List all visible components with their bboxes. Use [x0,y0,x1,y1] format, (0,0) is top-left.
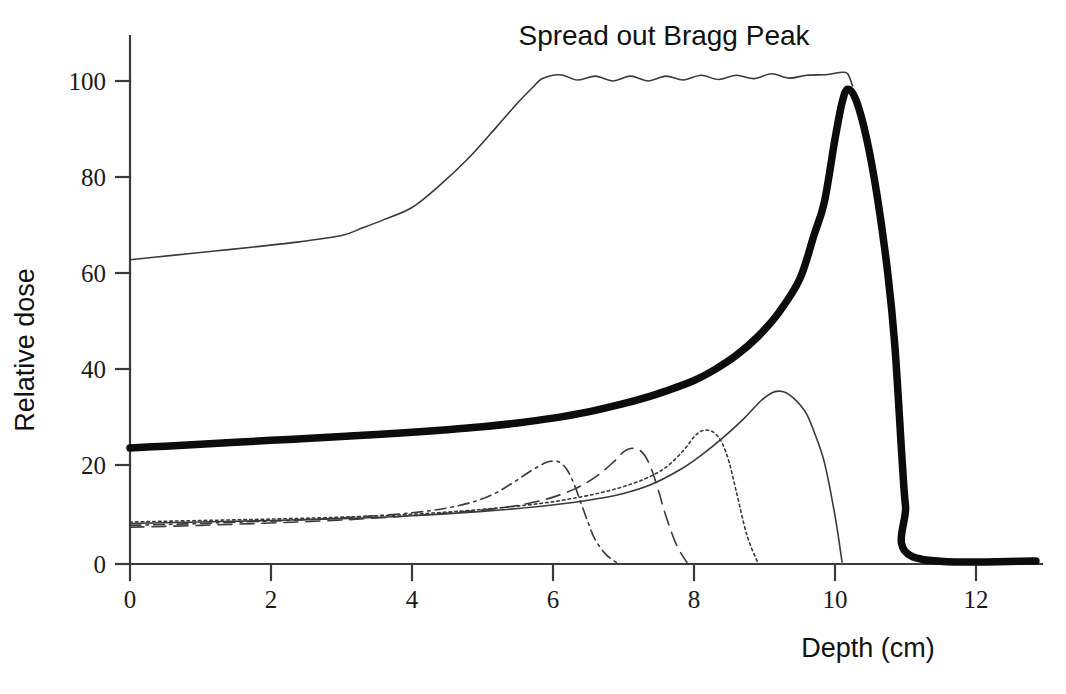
y-axis-title: Relative dose [10,268,40,432]
y-tick-label-40: 40 [81,356,106,383]
x-axis-tick-labels: 0 2 4 6 8 10 12 [124,586,989,613]
x-axis-ticks [130,564,976,580]
x-tick-label-6: 6 [547,586,560,613]
series-path-3 [130,448,687,562]
y-tick-label-60: 60 [81,260,106,287]
x-axis-title: Depth (cm) [801,633,935,663]
x-tick-label-10: 10 [823,586,848,613]
y-axis-ticks [116,81,130,564]
y-axis-tick-labels: 100 80 60 40 20 0 [69,68,107,578]
x-tick-label-8: 8 [688,586,701,613]
x-tick-label-0: 0 [124,586,137,613]
y-tick-label-100: 100 [69,68,107,95]
series-path-1 [130,72,853,260]
curve-group [130,72,1036,562]
chart-title: Spread out Bragg Peak [518,20,810,51]
y-tick-label-0: 0 [94,551,107,578]
series-path-4 [130,430,757,562]
chart-canvas: 100 80 60 40 20 0 0 2 4 6 8 10 12 [0,0,1066,694]
y-tick-label-20: 20 [81,452,106,479]
x-tick-label-4: 4 [406,586,419,613]
series-path-5 [130,391,842,562]
series-path-2 [130,461,616,562]
series-path-0 [130,89,1036,562]
y-tick-label-80: 80 [81,164,106,191]
x-tick-label-2: 2 [265,586,278,613]
bragg-peak-chart: 100 80 60 40 20 0 0 2 4 6 8 10 12 [0,0,1066,694]
x-tick-label-12: 12 [964,586,989,613]
